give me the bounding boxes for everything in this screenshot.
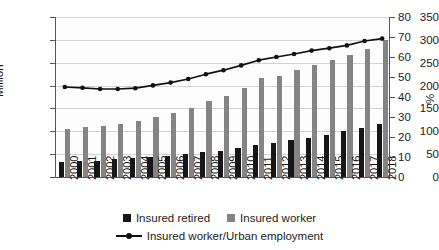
line-marker-2014 bbox=[309, 48, 314, 53]
legend-line-marker-icon bbox=[116, 232, 142, 240]
line-marker-2011 bbox=[256, 58, 261, 63]
y-axis-right-tick-label: 20 bbox=[398, 131, 411, 143]
y-axis-right-tick-label: 40 bbox=[398, 91, 411, 103]
x-axis-label-2008: 2008 bbox=[209, 156, 221, 180]
chart-container: Million % 050100150200250300350 01020304… bbox=[0, 0, 439, 250]
x-axis-label-2005: 2005 bbox=[156, 156, 168, 180]
legend-label-insured-retired: Insured retired bbox=[136, 212, 210, 224]
y-axis-right-tick-label: 10 bbox=[398, 151, 411, 163]
line-marker-2004 bbox=[133, 86, 138, 91]
line-marker-2001 bbox=[80, 86, 85, 91]
x-axis-label-2007: 2007 bbox=[192, 156, 204, 180]
line-marker-2003 bbox=[115, 87, 120, 92]
x-axis-label-2002: 2002 bbox=[104, 156, 116, 180]
y-axis-right-tick-label: 50 bbox=[398, 71, 411, 83]
x-axis-label-2017: 2017 bbox=[368, 156, 380, 180]
x-axis-label-2011: 2011 bbox=[262, 156, 274, 180]
legend-item-insured-worker: Insured worker bbox=[227, 212, 316, 224]
line-marker-2007 bbox=[186, 77, 191, 82]
x-axis-label-2018: 2018 bbox=[386, 156, 398, 180]
line-marker-2008 bbox=[204, 72, 209, 77]
x-axis-label-2006: 2006 bbox=[174, 156, 186, 180]
x-axis-label-2004: 2004 bbox=[139, 156, 151, 180]
x-axis-label-2016: 2016 bbox=[350, 156, 362, 180]
legend-swatch-icon-retired bbox=[123, 214, 131, 222]
legend-label-insured-worker-ratio: Insured worker/Urban employment bbox=[147, 230, 323, 242]
x-axis-label-2013: 2013 bbox=[298, 156, 310, 180]
y-axis-right-tick-label: 70 bbox=[398, 31, 411, 43]
plot-area bbox=[55, 17, 390, 177]
y-axis-right-tick-label: 0 bbox=[398, 171, 404, 183]
y-axis-right-tick-label: 30 bbox=[398, 111, 411, 123]
x-axis-label-2012: 2012 bbox=[280, 156, 292, 180]
legend-item-insured-retired: Insured retired bbox=[123, 212, 210, 224]
line-series-layer bbox=[56, 17, 391, 177]
line-marker-2015 bbox=[327, 46, 332, 51]
line-marker-2013 bbox=[292, 52, 297, 57]
x-axis-label-2009: 2009 bbox=[227, 156, 239, 180]
x-axis-label-2010: 2010 bbox=[245, 156, 257, 180]
line-marker-2017 bbox=[362, 39, 367, 44]
line-marker-2012 bbox=[274, 55, 279, 60]
line-marker-2002 bbox=[98, 87, 103, 92]
x-axis-label-2001: 2001 bbox=[86, 156, 98, 180]
chart-legend: Insured retired Insured worker Insured w… bbox=[0, 209, 439, 245]
line-marker-2009 bbox=[221, 68, 226, 73]
line-marker-2010 bbox=[239, 63, 244, 68]
x-axis-label-2015: 2015 bbox=[333, 156, 345, 180]
x-axis-label-2000: 2000 bbox=[68, 156, 80, 180]
line-marker-2006 bbox=[168, 80, 173, 85]
line-marker-2016 bbox=[345, 43, 350, 48]
line-marker-2005 bbox=[151, 83, 156, 88]
y-axis-right-tick-label: 80 bbox=[398, 11, 411, 23]
legend-row-2: Insured worker/Urban employment bbox=[0, 227, 439, 245]
line-insured-worker-urban-employment bbox=[65, 39, 382, 89]
x-axis-label-2014: 2014 bbox=[315, 156, 327, 180]
legend-row-1: Insured retired Insured worker bbox=[0, 209, 439, 227]
line-marker-2018 bbox=[380, 36, 385, 41]
x-axis-label-2003: 2003 bbox=[121, 156, 133, 180]
legend-label-insured-worker: Insured worker bbox=[240, 212, 316, 224]
legend-item-insured-worker-ratio: Insured worker/Urban employment bbox=[116, 230, 323, 242]
y-axis-title-left: Million bbox=[0, 64, 5, 97]
y-axis-right-tick-label: 60 bbox=[398, 51, 411, 63]
legend-swatch-icon-worker bbox=[227, 214, 235, 222]
line-marker-2000 bbox=[63, 85, 68, 90]
